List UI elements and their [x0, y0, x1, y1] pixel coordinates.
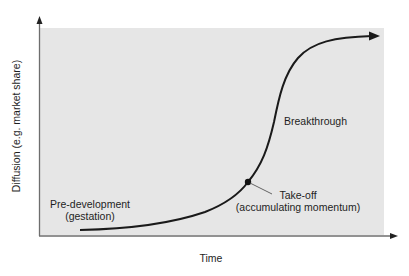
s-curve-diagram: Diffusion (e.g. market share) Time Pre-d…	[0, 0, 409, 276]
y-axis-arrow-icon	[37, 16, 43, 24]
takeoff-marker	[245, 179, 251, 185]
breakthrough-label: Breakthrough	[284, 115, 347, 127]
predev-title: Pre-development	[40, 198, 140, 210]
takeoff-label: Take-off (accumulating momentum)	[228, 189, 368, 213]
y-axis-label: Diffusion (e.g. market share)	[10, 60, 22, 192]
takeoff-title: Take-off	[228, 189, 368, 201]
x-axis-label: Time	[191, 252, 231, 264]
predev-label: Pre-development (gestation)	[40, 198, 140, 222]
x-axis-arrow-icon	[390, 233, 398, 239]
takeoff-subtitle: (accumulating momentum)	[228, 201, 368, 213]
diagram-canvas	[0, 0, 409, 276]
predev-subtitle: (gestation)	[40, 210, 140, 222]
